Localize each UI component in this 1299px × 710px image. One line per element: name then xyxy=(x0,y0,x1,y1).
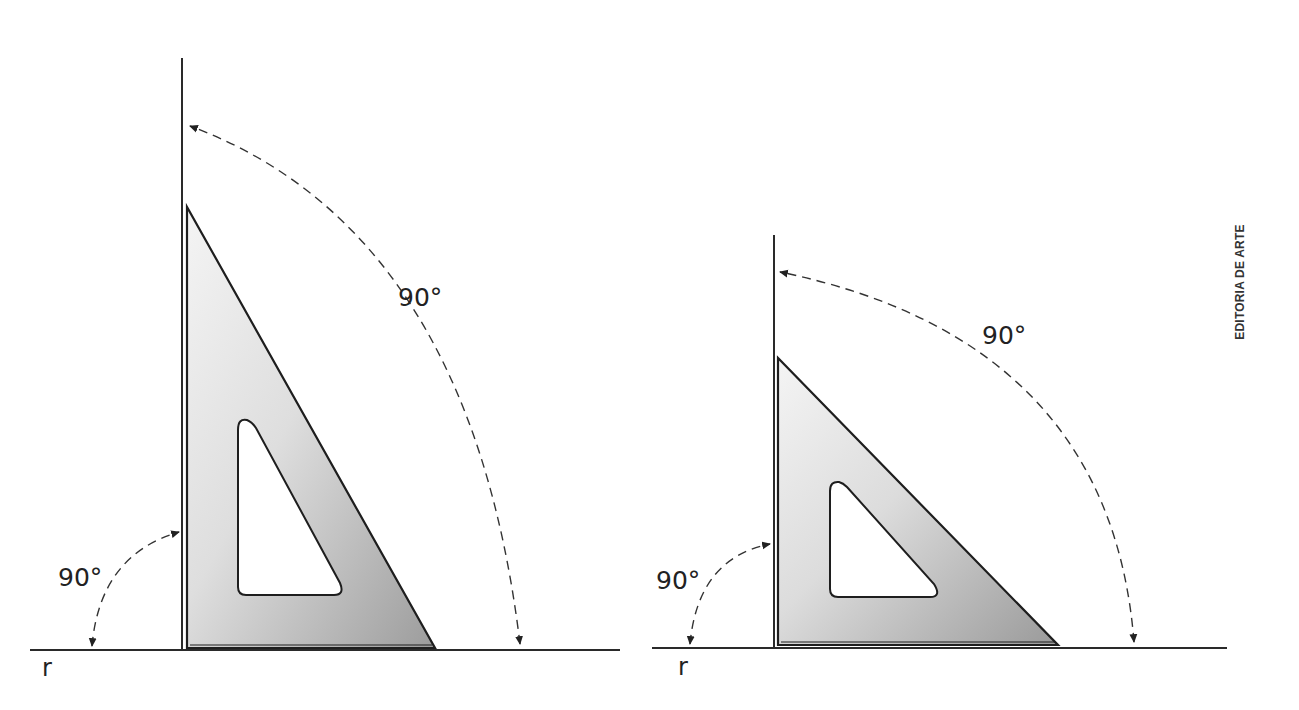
figure-left: 90° 90° r xyxy=(30,58,620,682)
angle-label-small-left: 90° xyxy=(58,563,102,592)
set-square-right xyxy=(778,358,1058,645)
figure-right: 90° 90° r xyxy=(652,235,1227,681)
image-credit: EDITORIA DE ARTE xyxy=(1233,224,1247,339)
line-label-right: r xyxy=(678,653,688,681)
line-label-left: r xyxy=(42,654,52,682)
small-arc-left xyxy=(92,532,179,646)
angle-label-large-left: 90° xyxy=(398,283,442,312)
angle-label-large-right: 90° xyxy=(982,321,1026,350)
angle-label-small-right: 90° xyxy=(656,566,700,595)
small-arc-right xyxy=(690,544,770,644)
perpendicular-construction-diagram: 90° 90° r 90° 90° r xyxy=(0,0,1299,710)
set-square-left xyxy=(187,207,435,648)
